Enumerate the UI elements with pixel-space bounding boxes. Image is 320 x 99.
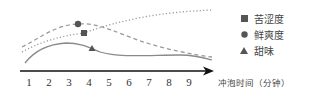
legend: 苦涩度 鲜爽度 甜味 <box>238 10 284 58</box>
x-tick: 1 <box>26 76 32 88</box>
x-tick: 9 <box>186 76 192 88</box>
circle-icon <box>238 31 250 38</box>
x-axis-label: 冲泡时间（分钟） <box>218 76 290 88</box>
legend-label: 鲜爽度 <box>254 27 284 42</box>
legend-label: 甜味 <box>254 43 274 58</box>
legend-item-sweetness: 甜味 <box>238 42 284 58</box>
x-tick: 3 <box>66 76 72 88</box>
x-tick: 6 <box>126 76 132 88</box>
bitterness-marker <box>81 30 87 36</box>
legend-item-bitterness: 苦涩度 <box>238 10 284 26</box>
legend-item-freshness: 鲜爽度 <box>238 26 284 42</box>
x-tick: 7 <box>146 76 152 88</box>
x-tick: 4 <box>86 76 92 88</box>
square-icon <box>238 15 250 22</box>
x-tick: 2 <box>46 76 52 88</box>
triangle-icon <box>238 47 250 54</box>
legend-label: 苦涩度 <box>254 11 284 26</box>
x-tick: 5 <box>106 76 112 88</box>
x-tick: 8 <box>166 76 172 88</box>
freshness-peak-marker <box>75 21 81 27</box>
